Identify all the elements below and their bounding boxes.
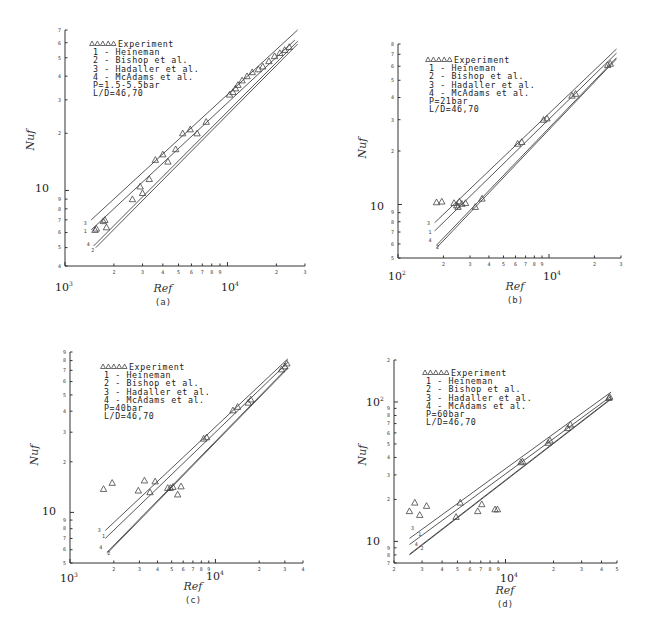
svg-text:4: 4 — [387, 454, 390, 460]
svg-text:3: 3 — [421, 566, 424, 572]
legend-triangle-icon — [433, 370, 438, 375]
svg-text:7: 7 — [479, 566, 482, 572]
legend: Experiment1 - Heineman2 - Bishop et al.3… — [423, 368, 533, 427]
svg-text:8: 8 — [387, 552, 390, 558]
x-axis-label: Ref — [495, 584, 517, 597]
svg-text:4: 4 — [600, 566, 603, 572]
svg-text:9: 9 — [387, 545, 390, 551]
svg-text:5: 5 — [387, 441, 390, 447]
svg-text:8: 8 — [387, 412, 390, 418]
legend-triangle-icon — [428, 370, 433, 375]
decade-label: 10 — [366, 535, 380, 548]
triangle-marker-icon — [423, 503, 429, 509]
svg-text:8: 8 — [489, 566, 492, 572]
svg-text:3: 3 — [387, 472, 390, 478]
svg-text:2: 2 — [392, 566, 395, 572]
x-axis-ticks: 234567892345 — [392, 559, 618, 572]
decade-label: 104 — [500, 571, 518, 585]
legend-triangle-icon — [439, 370, 444, 375]
svg-text:9: 9 — [387, 405, 390, 411]
triangle-marker-icon — [412, 499, 418, 505]
legend-annotation: L/D=46,70 — [426, 417, 476, 427]
legend-triangle-icon — [423, 370, 428, 375]
figure-root: 2345678923456789234567103104103142Experi… — [0, 0, 649, 634]
line-number-label: 2 — [420, 545, 423, 551]
chart-svg: 234567892345789234567892102104103142Expe… — [0, 0, 649, 634]
svg-text:2: 2 — [387, 357, 390, 363]
triangle-marker-icon — [479, 501, 485, 507]
y-axis-ticks: 789234567892 — [387, 357, 398, 566]
legend-triangle-icon — [444, 370, 449, 375]
line-number-label: 4 — [415, 541, 418, 547]
svg-text:3: 3 — [580, 566, 583, 572]
svg-text:7: 7 — [387, 420, 390, 426]
svg-text:2: 2 — [387, 496, 390, 502]
line-number-label: 1 — [418, 531, 421, 537]
svg-text:6: 6 — [387, 430, 390, 436]
svg-text:6: 6 — [469, 566, 472, 572]
y-axis-label: Nuf — [356, 443, 369, 467]
svg-text:4: 4 — [441, 566, 444, 572]
subplot-label: (d) — [497, 599, 513, 609]
line-number-label: 3 — [411, 525, 414, 531]
svg-text:5: 5 — [615, 566, 618, 572]
triangle-marker-icon — [475, 508, 481, 514]
triangle-marker-icon — [406, 508, 412, 514]
triangle-marker-icon — [417, 512, 423, 518]
svg-text:5: 5 — [456, 566, 459, 572]
decade-label: 102 — [366, 395, 384, 409]
svg-text:2: 2 — [552, 566, 555, 572]
svg-text:7: 7 — [387, 560, 390, 566]
